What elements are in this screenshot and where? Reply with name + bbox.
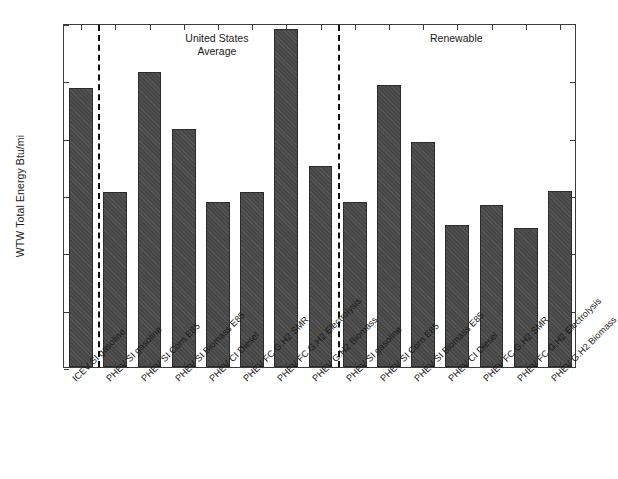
y-tick-mark — [64, 25, 69, 26]
group-divider-line — [338, 25, 340, 367]
group-divider-line — [98, 25, 100, 367]
x-tick-mark-top — [150, 25, 151, 30]
y-axis-title: WTW Total Energy Btu/mi — [14, 24, 28, 368]
bar — [514, 228, 538, 367]
x-tick-mark-bottom — [184, 362, 185, 367]
bar — [69, 88, 93, 367]
x-tick-mark-bottom — [286, 362, 287, 367]
x-tick-mark-top — [457, 25, 458, 30]
bar — [206, 202, 230, 367]
bar — [343, 202, 367, 367]
bar — [411, 142, 435, 367]
x-tick-mark-bottom — [321, 362, 322, 367]
bar — [309, 166, 333, 367]
bar — [103, 192, 127, 367]
x-tick-mark-bottom — [560, 362, 561, 367]
bar — [548, 191, 572, 367]
x-tick-mark-top — [355, 25, 356, 30]
x-tick-mark-top — [560, 25, 561, 30]
y-tick-mark — [64, 82, 69, 83]
bar — [480, 205, 504, 367]
x-tick-mark-top — [526, 25, 527, 30]
bar — [172, 129, 196, 367]
x-tick-mark-bottom — [457, 362, 458, 367]
x-tick-mark-top — [218, 25, 219, 30]
x-tick-mark-top — [184, 25, 185, 30]
x-tick-mark-top — [423, 25, 424, 30]
bar — [274, 29, 298, 367]
plot-area — [63, 24, 576, 368]
bar — [138, 72, 162, 367]
x-tick-mark-bottom — [81, 362, 82, 367]
x-tick-mark-bottom — [526, 362, 527, 367]
x-tick-mark-bottom — [355, 362, 356, 367]
x-tick-mark-top — [321, 25, 322, 30]
x-tick-mark-top — [389, 25, 390, 30]
x-tick-mark-bottom — [389, 362, 390, 367]
group-annotation-1: United States Average — [137, 32, 297, 58]
x-tick-mark-bottom — [218, 362, 219, 367]
bar — [445, 225, 469, 367]
y-tick-mark-right — [570, 140, 575, 141]
x-tick-mark-bottom — [115, 362, 116, 367]
y-tick-mark — [64, 369, 69, 370]
x-tick-mark-top — [492, 25, 493, 30]
x-tick-mark-bottom — [150, 362, 151, 367]
bar — [240, 192, 264, 367]
group-annotation-2: Renewable — [376, 32, 536, 45]
x-tick-mark-bottom — [492, 362, 493, 367]
y-tick-mark-right — [570, 82, 575, 83]
x-tick-mark-bottom — [423, 362, 424, 367]
x-tick-mark-top — [252, 25, 253, 30]
x-tick-mark-bottom — [252, 362, 253, 367]
x-tick-mark-top — [286, 25, 287, 30]
x-tick-mark-top — [115, 25, 116, 30]
x-tick-mark-top — [81, 25, 82, 30]
bar — [377, 85, 401, 367]
